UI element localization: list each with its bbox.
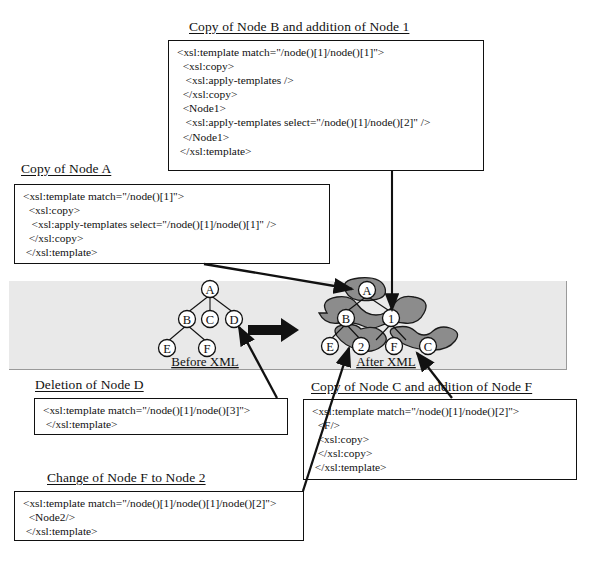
- connector-copy-node-a-to-node-a: [204, 264, 352, 289]
- connector-change-node-f-to-node2: [303, 348, 349, 491]
- connector-arrows: [0, 0, 593, 568]
- connector-deletion-to-node-d: [239, 327, 277, 398]
- connector-copy-node-c-to-node-f: [417, 353, 452, 398]
- figure-canvas: Copy of Node B and addition of Node 1 Co…: [0, 0, 593, 568]
